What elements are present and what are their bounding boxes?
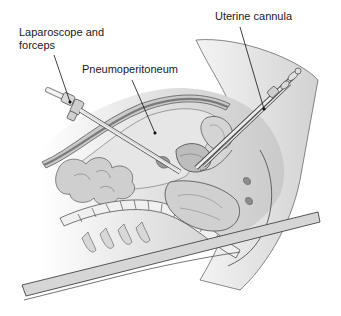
label-pneumoperitoneum: Pneumoperitoneum — [82, 63, 178, 76]
label-line-1: Laparoscope and — [19, 26, 104, 39]
label-line-2: forceps — [19, 39, 104, 52]
laparoscopy-illustration: Laparoscope and forceps Pneumoperitoneum… — [0, 0, 341, 316]
label-laparoscope-and-forceps: Laparoscope and forceps — [19, 26, 104, 52]
label-uterine-cannula: Uterine cannula — [215, 10, 292, 23]
